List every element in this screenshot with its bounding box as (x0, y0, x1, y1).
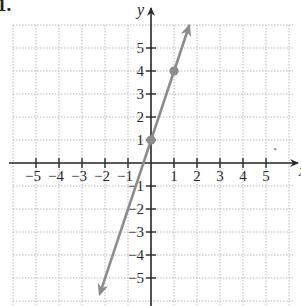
x-tick-label: 2 (193, 168, 201, 184)
x-tick-label: 3 (216, 168, 224, 184)
y-tick-label: −4 (128, 247, 144, 263)
x-tick-label: −4 (48, 168, 64, 184)
x-tick-label: 4 (239, 168, 247, 184)
y-tick-label: 3 (137, 86, 145, 102)
coordinate-plane: xy −5−4−3−2−112345−5−4−3−2−112345 (0, 0, 301, 306)
x-tick-label: −5 (25, 168, 41, 184)
stray-dot (274, 148, 277, 151)
x-tick-label: 5 (262, 168, 270, 184)
y-tick-label: −3 (128, 224, 144, 240)
y-axis-label: y (135, 1, 145, 19)
plotted-point (146, 135, 155, 144)
x-tick-label: 1 (170, 168, 178, 184)
x-tick-label: −3 (71, 168, 87, 184)
y-tick-label: 2 (137, 109, 145, 125)
plotted-point (169, 66, 178, 75)
grid-lines (13, 25, 293, 305)
y-tick-label: 5 (137, 40, 145, 56)
x-tick-label: −2 (94, 168, 110, 184)
y-tick-label: −5 (128, 270, 144, 286)
x-axis-label: x (298, 162, 301, 179)
y-tick-label: 1 (137, 132, 145, 148)
y-tick-label: 4 (137, 63, 145, 79)
axes: xy (9, 1, 301, 306)
line-graph (100, 25, 190, 294)
